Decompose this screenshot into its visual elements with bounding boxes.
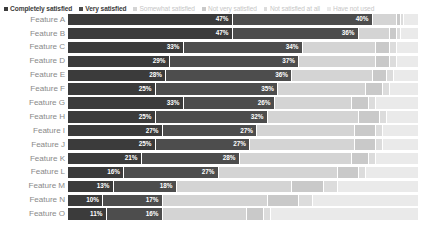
bar-segment[interactable] — [369, 153, 376, 164]
bar-segment[interactable] — [359, 167, 366, 178]
bar-segment[interactable] — [278, 83, 366, 94]
bar-segment[interactable] — [390, 28, 397, 39]
bar-segment[interactable]: 10% — [68, 195, 103, 206]
bar-segment[interactable] — [359, 28, 391, 39]
bar-segment[interactable] — [275, 97, 352, 108]
bar-segment[interactable] — [257, 125, 355, 136]
bar-segment[interactable] — [383, 83, 390, 94]
bar-segment[interactable]: 27% — [68, 125, 163, 136]
bar-segment[interactable]: 25% — [68, 83, 156, 94]
bar-segment[interactable] — [299, 56, 376, 67]
bar-segment[interactable] — [240, 153, 352, 164]
bar-segment[interactable] — [390, 83, 418, 94]
bar-segment[interactable] — [380, 111, 387, 122]
bar-segment[interactable] — [299, 195, 313, 206]
bar-segment[interactable]: 29% — [68, 56, 170, 67]
legend-item-3[interactable]: Not very satisfied — [202, 6, 257, 13]
bar-segment[interactable]: 25% — [68, 111, 156, 122]
bar-segment[interactable] — [324, 181, 338, 192]
bar-segment[interactable] — [387, 70, 394, 81]
bar-segment[interactable] — [359, 111, 380, 122]
bar-segment[interactable]: 47% — [68, 14, 233, 25]
bar-segment[interactable] — [247, 208, 265, 219]
bar-segment[interactable] — [376, 125, 383, 136]
bar-segment[interactable] — [376, 97, 418, 108]
bar-segment[interactable]: 40% — [233, 14, 373, 25]
stacked-bar[interactable]: 10%17% — [68, 195, 418, 206]
bar-segment[interactable]: 33% — [68, 42, 184, 53]
stacked-bar[interactable]: 28%36% — [68, 70, 418, 81]
bar-segment[interactable] — [401, 28, 419, 39]
bar-segment[interactable] — [338, 181, 419, 192]
bar-segment[interactable] — [383, 125, 418, 136]
bar-segment[interactable]: 27% — [163, 125, 258, 136]
bar-segment[interactable]: 28% — [142, 153, 240, 164]
bar-segment[interactable]: 32% — [156, 111, 268, 122]
bar-segment[interactable]: 26% — [184, 97, 275, 108]
bar-segment[interactable] — [352, 153, 370, 164]
legend-item-0[interactable]: Completely satisfied — [4, 6, 72, 13]
bar-segment[interactable] — [313, 195, 418, 206]
bar-segment[interactable] — [219, 167, 338, 178]
bar-segment[interactable] — [404, 14, 418, 25]
bar-segment[interactable] — [366, 83, 384, 94]
bar-segment[interactable]: 36% — [233, 28, 359, 39]
stacked-bar[interactable]: 25%27% — [68, 139, 418, 150]
bar-segment[interactable] — [397, 56, 418, 67]
bar-segment[interactable]: 21% — [68, 153, 142, 164]
bar-segment[interactable] — [397, 42, 418, 53]
bar-segment[interactable] — [390, 42, 397, 53]
stacked-bar[interactable]: 11%16% — [68, 208, 418, 219]
bar-segment[interactable] — [387, 111, 419, 122]
bar-segment[interactable] — [390, 56, 397, 67]
bar-segment[interactable] — [271, 208, 418, 219]
bar-segment[interactable]: 28% — [68, 70, 166, 81]
bar-segment[interactable] — [163, 208, 247, 219]
bar-segment[interactable]: 33% — [68, 97, 184, 108]
bar-segment[interactable]: 36% — [166, 70, 292, 81]
stacked-bar[interactable]: 47%40% — [68, 14, 418, 25]
bar-segment[interactable]: 27% — [124, 167, 219, 178]
stacked-bar[interactable]: 21%28% — [68, 153, 418, 164]
bar-segment[interactable]: 27% — [156, 139, 251, 150]
bar-segment[interactable] — [250, 139, 355, 150]
bar-segment[interactable] — [394, 70, 419, 81]
bar-segment[interactable]: 16% — [68, 167, 124, 178]
stacked-bar[interactable]: 16%27% — [68, 167, 418, 178]
bar-segment[interactable]: 17% — [103, 195, 163, 206]
bar-segment[interactable]: 18% — [114, 181, 177, 192]
legend-item-4[interactable]: Not satisfied at all — [264, 6, 320, 13]
bar-segment[interactable] — [352, 97, 370, 108]
legend-item-1[interactable]: Very satisfied — [79, 6, 126, 13]
bar-segment[interactable] — [376, 139, 383, 150]
bar-segment[interactable] — [303, 42, 377, 53]
stacked-bar[interactable]: 13%18% — [68, 181, 418, 192]
stacked-bar[interactable]: 33%34% — [68, 42, 418, 53]
bar-segment[interactable]: 35% — [156, 83, 279, 94]
legend-item-5[interactable]: Have not used — [327, 6, 374, 13]
bar-segment[interactable] — [373, 14, 398, 25]
stacked-bar[interactable]: 29%37% — [68, 56, 418, 67]
bar-segment[interactable] — [355, 139, 376, 150]
bar-segment[interactable] — [268, 111, 359, 122]
bar-segment[interactable] — [366, 167, 419, 178]
bar-segment[interactable] — [292, 181, 324, 192]
bar-segment[interactable] — [264, 208, 271, 219]
bar-segment[interactable]: 47% — [68, 28, 233, 39]
bar-segment[interactable] — [376, 153, 418, 164]
bar-segment[interactable] — [373, 70, 387, 81]
bar-segment[interactable]: 16% — [107, 208, 163, 219]
bar-segment[interactable] — [383, 139, 418, 150]
bar-segment[interactable]: 25% — [68, 139, 156, 150]
bar-segment[interactable] — [369, 97, 376, 108]
stacked-bar[interactable]: 25%35% — [68, 83, 418, 94]
bar-segment[interactable] — [268, 195, 300, 206]
legend-item-2[interactable]: Somewhat satisfied — [133, 6, 194, 13]
bar-segment[interactable] — [177, 181, 293, 192]
bar-segment[interactable] — [376, 42, 390, 53]
bar-segment[interactable] — [355, 125, 376, 136]
bar-segment[interactable] — [292, 70, 373, 81]
bar-segment[interactable] — [163, 195, 268, 206]
stacked-bar[interactable]: 25%32% — [68, 111, 418, 122]
bar-segment[interactable] — [376, 56, 390, 67]
